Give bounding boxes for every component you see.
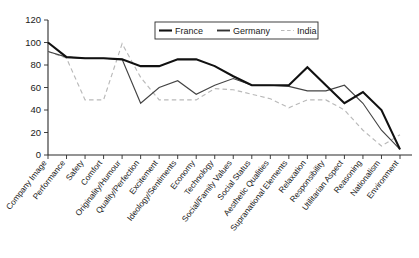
chart-legend: FranceGermanyIndia [155,22,318,39]
legend-label-germany: Germany [233,26,271,36]
x-axis [48,155,412,159]
legend-label-india: India [297,26,317,36]
y-axis-tick-label: 80 [30,59,41,70]
series-lines [48,43,400,150]
y-axis-tick-label: 120 [25,14,41,25]
y-axis-tick-label: 100 [25,37,41,48]
y-axis-tick-label: 60 [30,82,41,93]
y-axis-tick-label: 40 [30,104,41,115]
line-chart: 020406080100120 Company ImagePerformance… [0,0,419,258]
series-line-france [48,43,400,150]
legend-label-france: France [175,26,203,36]
y-axis: 020406080100120 [25,14,48,160]
x-axis-labels: Company ImagePerformanceSafetyComfortOri… [4,158,401,233]
y-axis-tick-label: 20 [30,127,41,138]
chart-canvas: 020406080100120 Company ImagePerformance… [0,0,419,258]
